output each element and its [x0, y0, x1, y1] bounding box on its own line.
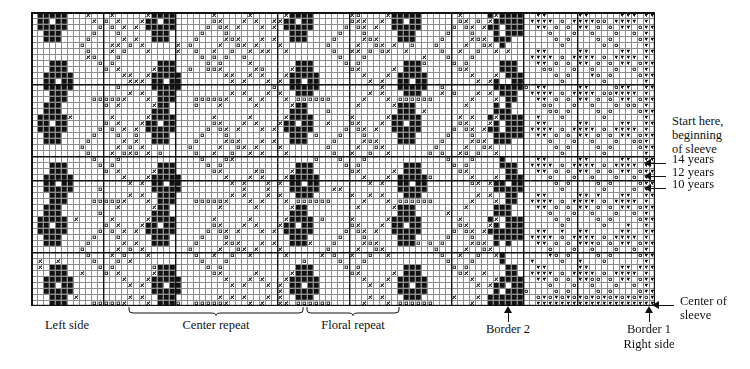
- annotation-border-2: Border 2: [475, 322, 541, 337]
- annotation-10-years: 10 years: [672, 177, 714, 191]
- arrow-to-border-1: [645, 306, 654, 322]
- arrow-to-center-of-sleeve: [652, 301, 674, 310]
- annotation-line: sleeve: [680, 308, 727, 322]
- arrow-to-10-years: [644, 184, 666, 193]
- annotation-line: 10 years: [672, 177, 714, 191]
- annotation-line: Center of: [680, 294, 727, 308]
- annotation-start-here: Start here, beginning of sleeve: [672, 114, 723, 157]
- brace-floral-repeat: [306, 306, 400, 316]
- arrow-to-12-years: [644, 172, 666, 181]
- arrow-to-14-years: [644, 159, 666, 168]
- chart-grid-canvas: [31, 12, 655, 306]
- annotation-border-1-right-side: Border 1 Right side: [613, 322, 685, 351]
- annotation-center-of-sleeve: Center of sleeve: [680, 294, 727, 322]
- arrow-shaft: [650, 176, 666, 177]
- arrow-to-border-2: [504, 306, 513, 322]
- arrow-shaft: [650, 163, 666, 164]
- annotation-floral-repeat: Floral repeat: [306, 318, 400, 333]
- annotation-line: Start here,: [672, 114, 723, 128]
- annotation-line: Left side: [24, 318, 110, 333]
- annotation-center-repeat: Center repeat: [128, 318, 304, 333]
- annotation-line: Floral repeat: [306, 318, 400, 333]
- colorwork-chart: [31, 12, 655, 306]
- arrow-shaft: [650, 188, 666, 189]
- arrow-shaft: [658, 305, 674, 306]
- annotation-line: Border 1: [613, 322, 685, 337]
- annotation-line: Right side: [613, 337, 685, 352]
- arrow-shaft: [649, 312, 650, 322]
- annotation-line: beginning: [672, 128, 723, 142]
- annotation-line: Center repeat: [128, 318, 304, 333]
- annotation-line: Border 2: [475, 322, 541, 337]
- arrow-shaft: [508, 312, 509, 322]
- brace-center-repeat: [128, 306, 304, 316]
- annotation-left-side: Left side: [24, 318, 110, 333]
